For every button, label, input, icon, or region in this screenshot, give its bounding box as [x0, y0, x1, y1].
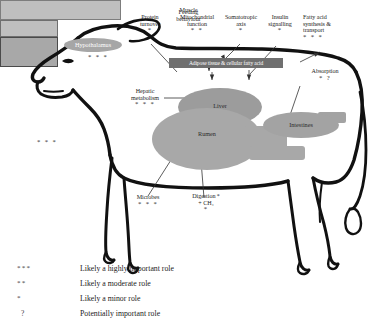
legend: *** Likely a highly important role ** Li…	[0, 258, 377, 334]
label-hepatic-metabolism-stars: * * *	[122, 101, 168, 108]
organ-adipose-tissue: Adipose tissue & cellular fatty acid	[169, 58, 283, 68]
label-feeding-behaviour-text: Feeding behaviour	[0, 8, 377, 23]
hypothalamus-stars-wrap: * * *	[78, 54, 118, 61]
legend-symbol: *	[17, 294, 53, 302]
label-feeding-behaviour-line1: Feeding	[0, 8, 377, 15]
legend-description: Potentially important role	[80, 309, 160, 318]
organ-intestines: Intestines	[263, 112, 339, 138]
legend-description: Likely a minor role	[80, 294, 140, 303]
label-digestion: Digestion * + CH₄ *	[178, 193, 234, 213]
label-digestion-stars: *	[178, 206, 234, 213]
organ-adipose-label: Adipose tissue & cellular fatty acid	[169, 60, 283, 66]
label-feeding-behaviour-line2: behaviour	[0, 15, 377, 22]
label-microbes-stars: * * *	[124, 201, 172, 208]
legend-description: Likely a moderate role	[80, 279, 151, 288]
label-insulin-signalling-stars: *	[258, 27, 302, 34]
label-hepatic-metabolism: Hepatic metabolism * * *	[122, 88, 168, 108]
diagram-canvas: Hypothalamus * * * Adipose tissue & cell…	[0, 0, 377, 334]
organ-hypothalamus-label: Hypothalamus	[64, 41, 122, 48]
organ-rumen-lobe-3	[249, 146, 305, 160]
label-absorption-stars: * ?	[296, 75, 354, 82]
organ-intestines-label: Intestines	[263, 121, 339, 128]
label-feeding-behaviour-stars: * * *	[37, 138, 57, 145]
hypothalamus-stars: * * *	[88, 53, 108, 60]
label-absorption: Absorption * ?	[296, 68, 354, 81]
label-fatty-acid-synthesis-stars: * * *	[303, 34, 363, 41]
label-hepatic-metabolism-line1: Hepatic	[122, 88, 168, 95]
legend-symbol: ?	[21, 309, 57, 318]
label-protein-turnover-stars: *	[126, 27, 174, 34]
legend-symbol: **	[17, 279, 53, 287]
legend-symbol: ***	[17, 264, 53, 272]
label-feeding-behaviour-stars-wrap: * * *	[18, 139, 76, 146]
label-digestion-line1: Digestion *	[178, 193, 234, 200]
legend-description: Likely a highly important role	[80, 264, 174, 273]
label-microbes: Microbes * * *	[124, 194, 172, 207]
organ-hypothalamus: Hypothalamus	[64, 38, 122, 52]
